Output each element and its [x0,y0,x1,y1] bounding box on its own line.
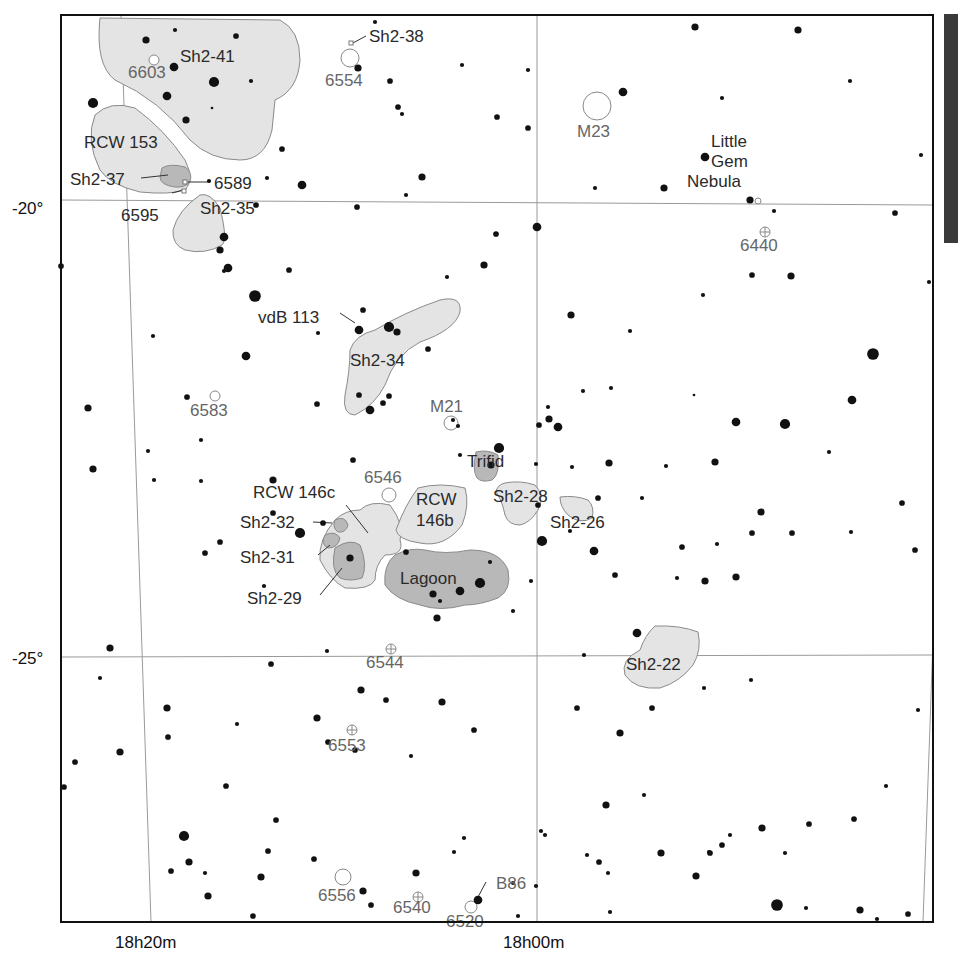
label-vdb-113: vdB 113 [258,308,319,327]
label-ngc-6540: 6540 [393,898,431,917]
star [279,146,285,152]
star [286,267,292,273]
label-sh2-41: Sh2-41 [180,47,235,66]
star [462,836,466,840]
star [529,579,533,583]
star [533,223,542,232]
star [616,729,623,736]
star [203,871,207,875]
star [772,209,776,213]
label-m21: M21 [430,397,463,416]
nebula-marker-icon [182,189,186,193]
star [400,112,404,116]
star [356,392,362,398]
star [456,587,465,596]
star [590,547,599,556]
label-ngc-6554: 6554 [325,71,363,90]
star [856,906,863,913]
star [98,676,102,680]
star [380,400,386,406]
star [360,307,366,313]
star [404,193,408,197]
star [649,705,655,711]
star [546,405,550,409]
star [425,346,431,352]
star [749,530,755,536]
star [265,848,271,854]
label-sh2-31: Sh2-31 [240,548,295,567]
star [383,697,389,703]
star [220,233,229,242]
star [295,528,305,538]
star [612,572,618,578]
star [163,92,172,101]
star [412,869,419,876]
star [346,554,353,561]
star [749,678,753,682]
star [216,246,223,253]
star [534,884,538,888]
star [163,704,170,711]
star [355,326,364,335]
label-sh2-28: Sh2-28 [493,487,548,506]
star [460,63,464,67]
star [184,394,190,400]
star [537,536,547,546]
star [693,394,696,397]
star [152,478,156,482]
label-little-gem-2: Gem [711,152,748,171]
star [165,734,171,740]
star [393,328,400,335]
open-cluster-icon [210,391,220,401]
open-cluster-icon [444,416,458,430]
star [848,396,857,405]
star [429,590,436,597]
open-cluster-icon [335,869,351,885]
star [545,415,552,422]
star [539,829,543,833]
star [433,614,440,621]
star [867,348,879,360]
star [789,530,795,536]
nebula-marker-icon [349,41,353,45]
star [691,23,698,30]
star [179,831,189,841]
star [827,450,831,454]
ra-label-18h20m: 18h20m [115,933,176,952]
star [702,686,706,690]
star [692,872,699,879]
star [268,661,274,667]
label-ngc-6546: 6546 [364,468,402,487]
star [543,833,547,837]
star [314,401,320,407]
star [884,784,888,788]
star [749,272,755,278]
star [758,824,765,831]
star [899,500,905,506]
nebula-marker-icon [183,180,187,184]
star [574,705,580,711]
label-sh2-29: Sh2-29 [247,589,302,608]
star [628,329,632,333]
label-rcw-146b-1: RCW [416,490,457,509]
label-sh2-37: Sh2-37 [70,170,125,189]
star [567,311,574,318]
star [602,801,609,808]
star [146,449,150,453]
star [526,68,530,72]
star [409,754,413,758]
label-ngc-6556: 6556 [318,886,356,905]
star [875,917,879,921]
star [313,714,320,721]
star [728,833,732,837]
star [582,653,586,657]
star [912,547,918,553]
label-rcw-153: RCW 153 [84,133,158,152]
open-cluster-icon [755,198,761,204]
ra-label-18h00m: 18h00m [503,933,564,952]
star [185,858,192,865]
star [354,204,360,210]
star [719,842,725,848]
star [732,418,741,427]
star [366,406,375,415]
